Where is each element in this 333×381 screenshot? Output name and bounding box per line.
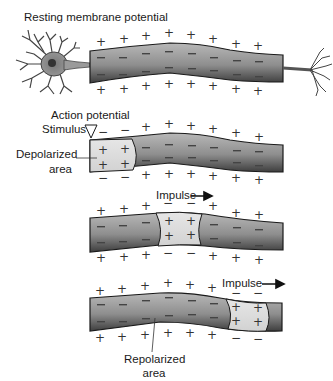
svg-text:+: + [207, 281, 217, 295]
svg-text:+: + [117, 330, 127, 344]
action-potential-panel: − − + + + + + + + + + + − − + + [76, 117, 283, 200]
svg-text:+: + [96, 35, 106, 49]
svg-text:−: − [120, 123, 130, 137]
svg-text:+: + [231, 206, 241, 220]
impulse-label-2: Impulse [222, 278, 262, 290]
svg-text:+: + [186, 167, 196, 181]
svg-text:+: + [208, 122, 218, 136]
svg-text:+: + [185, 326, 195, 340]
svg-text:+: + [119, 32, 129, 46]
svg-text:+: + [164, 26, 174, 40]
svg-text:+: + [254, 173, 264, 187]
svg-text:+: + [186, 28, 196, 42]
svg-text:+: + [95, 284, 105, 298]
svg-text:+: + [186, 77, 196, 91]
svg-text:+: + [254, 130, 264, 144]
svg-text:−: − [253, 332, 263, 346]
propagation-panel: + + + − − + + + + + + + + + + [90, 196, 283, 267]
axon-terminal-branches-icon [310, 48, 332, 96]
svg-text:+: + [119, 250, 129, 264]
repolarized-area-label: Repolarized area [124, 354, 184, 379]
svg-text:+: + [163, 326, 173, 340]
svg-text:+: + [231, 314, 241, 328]
nucleus [48, 59, 56, 67]
svg-text:−: − [186, 246, 196, 260]
impulse-arrow-icon-2 [262, 280, 284, 288]
svg-text:+: + [186, 214, 196, 228]
svg-text:−: − [231, 331, 241, 345]
svg-text:+: + [119, 202, 129, 216]
svg-text:+: + [231, 251, 241, 265]
svg-text:+: + [164, 77, 174, 91]
stimulus-label: Stimulus [42, 124, 86, 136]
svg-text:+: + [140, 328, 150, 342]
resting-membrane-potential-label: Resting membrane potential [24, 12, 168, 24]
svg-text:+: + [254, 253, 264, 267]
svg-text:+: + [186, 119, 196, 133]
depolarized-label-line1: Depolarized [16, 149, 72, 161]
svg-text:+: + [117, 282, 127, 296]
svg-text:+: + [231, 126, 241, 140]
svg-text:+: + [163, 276, 173, 290]
svg-text:+: + [164, 214, 174, 228]
svg-text:+: + [96, 204, 106, 218]
svg-text:+: + [208, 79, 218, 93]
svg-text:+: + [96, 83, 106, 97]
svg-text:+: + [253, 39, 263, 53]
axon-terminal [283, 68, 312, 70]
svg-text:+: + [253, 301, 263, 315]
svg-text:+: + [253, 315, 263, 329]
axon-hillock [64, 60, 90, 70]
svg-text:+: + [208, 249, 218, 263]
repolarized-label-line2: area [124, 368, 184, 380]
svg-text:+: + [231, 37, 241, 51]
svg-text:+: + [119, 82, 129, 96]
svg-text:+: + [208, 169, 218, 183]
svg-text:+: + [185, 278, 195, 292]
svg-text:+: + [141, 79, 151, 93]
svg-text:−: − [98, 171, 108, 185]
svg-text:+: + [141, 29, 151, 43]
repolarized-label-line1: Repolarized [124, 354, 184, 366]
svg-text:+: + [98, 143, 108, 157]
svg-text:+: + [208, 32, 218, 46]
svg-text:+: + [141, 168, 151, 182]
svg-text:−: − [163, 246, 173, 260]
depolarized-area-label: Depolarized area [16, 149, 72, 175]
svg-text:+: + [141, 248, 151, 262]
svg-text:+: + [140, 279, 150, 293]
svg-text:+: + [120, 142, 130, 156]
svg-text:+: + [164, 229, 174, 243]
svg-text:−: − [98, 125, 108, 139]
svg-text:+: + [207, 328, 217, 342]
action-potential-label: Action potential [51, 110, 130, 122]
resting-panel: + + + + + + + + + + + + + + + + [16, 26, 332, 98]
svg-text:+: + [141, 120, 151, 134]
svg-text:+: + [95, 331, 105, 345]
svg-text:+: + [141, 199, 151, 213]
svg-text:+: + [96, 251, 106, 265]
svg-text:+: + [164, 167, 174, 181]
svg-text:+: + [120, 157, 130, 171]
svg-text:+: + [231, 82, 241, 96]
svg-text:+: + [186, 228, 196, 242]
svg-text:+: + [98, 158, 108, 172]
depolarized-label-line2: area [16, 164, 72, 176]
svg-text:+: + [164, 117, 174, 131]
svg-text:+: + [231, 171, 241, 185]
svg-text:+: + [253, 84, 263, 98]
svg-text:+: + [208, 199, 218, 213]
svg-text:−: − [120, 170, 130, 184]
svg-text:+: + [254, 208, 264, 222]
impulse-label-1: Impulse [156, 190, 196, 202]
stimulus-triangle-icon [85, 125, 97, 138]
svg-text:+: + [231, 300, 241, 314]
